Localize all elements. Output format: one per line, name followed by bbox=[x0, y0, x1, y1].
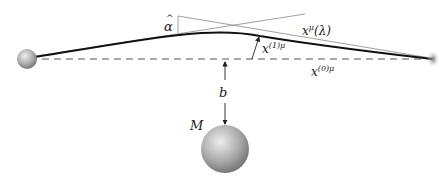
source-sphere bbox=[17, 49, 37, 69]
mass-label: M bbox=[189, 118, 204, 133]
path-label: xμ(λ) bbox=[302, 23, 331, 38]
perturbation-arrow bbox=[252, 37, 259, 59]
photon-path-curve bbox=[30, 32, 432, 59]
unperturbed-label: x(0)μ bbox=[311, 64, 334, 79]
observer-icon bbox=[426, 50, 440, 68]
impact-parameter-label: b bbox=[219, 85, 227, 100]
perturbation-label: x(1)μ bbox=[262, 41, 285, 56]
lensing-diagram: ^ α xμ(λ) x(1)μ x(0)μ b M bbox=[0, 0, 444, 179]
alpha-label: α bbox=[164, 19, 173, 34]
lens-mass-sphere bbox=[201, 125, 249, 173]
